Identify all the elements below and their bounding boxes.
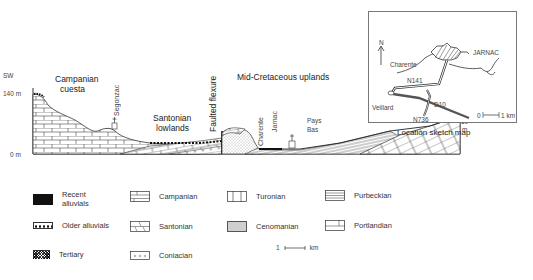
legend-label: Santonian [159,222,193,231]
charente-river-label: Charente [390,60,417,70]
legend-label: Older alluvials [62,221,109,230]
legend-label: Purbeckian [354,191,392,200]
north-label: N [379,38,384,48]
direction-sw-label: SW [3,71,13,81]
coniacian-swatch [130,250,150,261]
scale-value: 1 [276,243,280,253]
legend-item-santonian: Santonian [130,221,193,232]
legend-item-campanian: Campanian [130,191,197,202]
santonian-swatch [130,221,150,232]
road-n141-label: N141 [407,76,423,86]
legend-item-portlandian: Portlandian [325,220,392,231]
location-sketch-map: N Charente JARNAC N141 Veillard N736 D10… [368,11,517,123]
elevation-0-label: 0 m [10,150,21,160]
legend-label: Cenomanian [256,222,299,231]
inset-map-caption: Location sketch map [397,128,470,138]
campanian-swatch [130,191,150,202]
legend-item-older-alluvials: Older alluvials [33,221,109,230]
legend-item-turonian: Turonian [227,191,285,202]
legend-label: Recent alluvials [62,190,89,208]
map-scale-start: 0 [477,111,481,121]
legend-label: Tertiary [59,250,84,259]
legend-label: Portlandian [354,221,392,230]
jarnac-church-icon [289,134,295,148]
jarnac-town-label: JARNAC [473,48,499,58]
legend-label: Coniacian [159,251,192,260]
legend-label: Campanian [159,192,197,201]
santonian-lowlands-label-1: Santonian [153,113,191,123]
section-scale-bar: 1 km [276,243,318,253]
santonian-lowlands-label-2: lowlands [156,123,189,133]
legend-item-recent-alluvials: Recent alluvials [33,190,89,208]
jarnac-label: Jarnac [270,104,280,132]
legend-label: Turonian [256,192,285,201]
scale-line-icon [284,245,306,251]
faulted-flexure-label: Faulted flexure [208,72,218,132]
tertiary-swatch [33,250,50,259]
recent-alluvials-swatch [33,194,53,205]
older-alluvials-swatch [33,222,53,229]
scale-unit: km [310,243,319,253]
map-scale-end: 1 km [501,111,515,121]
legend-item-coniacian: Coniacian [130,250,192,261]
pays-bas-label-2: Bas [307,125,318,135]
segonzac-label: Segonzac [112,80,122,116]
legend-item-cenomanian: Cenomanian [227,221,299,232]
campanian-cuesta-label-1: Campanian [55,74,98,84]
road-n736-label: N736 [413,115,429,125]
segonzac-church-icon [112,117,117,129]
mid-cretaceous-uplands-label: Mid-Cretaceous uplands [237,72,329,82]
legend-item-purbeckian: Purbeckian [325,190,392,201]
road-d10-label: D10 [434,100,446,110]
veillard-label: Veillard [372,103,393,113]
purbeckian-swatch [325,190,345,201]
elevation-140-label: 140 m [3,89,21,99]
cenomanian-swatch [227,221,247,232]
campanian-cuesta-label-2: cuesta [60,84,85,94]
legend: Recent alluvials Older alluvials Tertiar… [0,175,533,280]
charente-label: Charente [256,110,266,146]
legend-item-tertiary: Tertiary [33,250,84,259]
turonian-swatch [227,191,247,202]
portlandian-swatch [325,220,345,231]
